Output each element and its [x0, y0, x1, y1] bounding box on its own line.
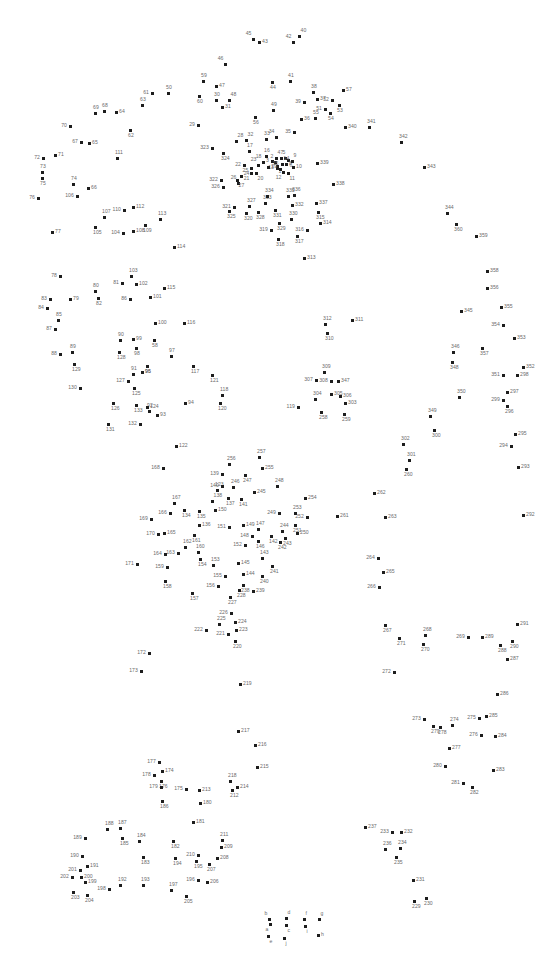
dot-mark — [330, 393, 333, 396]
dot-mark — [281, 530, 284, 533]
dot-mark — [337, 380, 340, 383]
dot-label: 60 — [197, 99, 203, 104]
dot-mark — [326, 332, 329, 335]
dot-mark — [275, 136, 278, 139]
dot-mark — [206, 881, 209, 884]
dot-label: 114 — [177, 244, 185, 249]
dot-mark — [257, 164, 260, 167]
dot-mark — [228, 526, 231, 529]
dot-mark — [256, 766, 259, 769]
dot-label: 180 — [203, 800, 212, 805]
dot-mark — [94, 290, 97, 293]
dot-mark — [69, 298, 72, 301]
dot-mark — [175, 445, 178, 448]
dot-label: 316 — [295, 227, 304, 232]
dot-mark — [250, 167, 253, 170]
dot-label: 269 — [456, 634, 465, 639]
dot-mark — [129, 298, 132, 301]
dot-mark — [268, 918, 271, 921]
dot-mark — [516, 623, 519, 626]
dot-label: 140 — [210, 483, 219, 488]
dot-mark — [132, 373, 135, 376]
dot-mark — [460, 310, 463, 313]
dot-label: 137 — [226, 501, 235, 506]
dot-label: 251 — [293, 528, 302, 533]
dot-label: 289 — [485, 634, 494, 639]
dot-label: 96 — [145, 369, 151, 374]
dot-label: 19 — [271, 164, 277, 169]
dot-label: 94 — [188, 400, 194, 405]
dot-mark — [216, 857, 219, 860]
dot-label: 70 — [61, 123, 67, 128]
dot-mark — [214, 509, 217, 512]
dot-mark — [471, 786, 474, 789]
dot-label: 326 — [211, 184, 220, 189]
dot-label: 98 — [134, 351, 140, 356]
dot-label: 271 — [397, 641, 406, 646]
dot-label: 181 — [196, 819, 205, 824]
dot-label: 119 — [287, 404, 295, 409]
dot-mark — [270, 229, 273, 232]
dot-mark — [269, 923, 272, 926]
dot-label: 29 — [189, 122, 195, 127]
dot-label: 177 — [147, 759, 156, 764]
dot-label: 44 — [270, 85, 276, 90]
dot-mark — [342, 89, 345, 92]
dot-label: h — [321, 932, 324, 937]
dot-label: 258 — [319, 415, 328, 420]
dot-mark — [511, 640, 514, 643]
dot-label: 78 — [51, 273, 57, 278]
dot-mark — [258, 456, 261, 459]
dot-mark — [492, 769, 495, 772]
dot-mark — [237, 730, 240, 733]
dot-mark — [250, 172, 253, 175]
dot-label: 36 — [304, 116, 310, 121]
dot-label: 124 — [150, 404, 159, 409]
dot-mark — [284, 537, 287, 540]
dot-mark — [462, 782, 465, 785]
dot-label: 279 — [431, 729, 440, 734]
dot-label: 75 — [40, 181, 46, 186]
dot-label: 245 — [257, 489, 266, 494]
dot-mark — [344, 402, 347, 405]
dot-label: 360 — [454, 227, 463, 232]
dot-label: 134 — [182, 513, 191, 518]
dot-label: 107 — [102, 209, 111, 214]
dot-mark — [293, 131, 296, 134]
dot-mark — [227, 497, 230, 500]
dot-label: 127 — [116, 378, 125, 383]
dot-label: 341 — [367, 119, 376, 124]
dot-mark — [184, 546, 187, 549]
dot-label: 215 — [260, 764, 269, 769]
dot-mark — [46, 307, 49, 310]
dot-mark — [393, 671, 396, 674]
dot-mark — [158, 761, 161, 764]
dot-mark — [228, 99, 231, 102]
dot-mark — [121, 837, 124, 840]
dot-label: 340 — [348, 124, 357, 129]
dot-label: 122 — [179, 443, 188, 448]
dot-mark — [254, 744, 257, 747]
dot-mark — [452, 351, 455, 354]
dot-label: 2 — [271, 154, 274, 159]
dot-mark — [153, 774, 156, 777]
dot-label: 139 — [210, 471, 219, 476]
dot-mark — [167, 92, 170, 95]
dot-mark — [122, 232, 125, 235]
dot-label: 309 — [322, 364, 331, 369]
dot-mark — [146, 365, 149, 368]
dot-mark — [108, 888, 111, 891]
dot-mark — [160, 780, 163, 783]
dot-mark — [172, 840, 175, 843]
dot-mark — [135, 347, 138, 350]
dot-label: 126 — [111, 406, 120, 411]
dot-mark — [467, 636, 470, 639]
dot-mark — [161, 800, 164, 803]
dot-mark — [160, 786, 163, 789]
dot-mark — [174, 857, 177, 860]
dot-label: 35 — [285, 129, 291, 134]
dot-mark — [506, 405, 509, 408]
dot-label: 319 — [259, 227, 268, 232]
dot-label: 337 — [319, 200, 328, 205]
dot-label: 84 — [38, 305, 44, 310]
